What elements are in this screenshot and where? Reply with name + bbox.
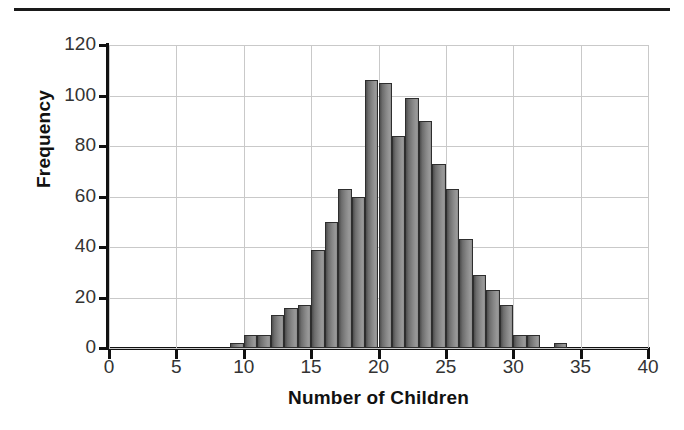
histogram-bar xyxy=(446,189,459,348)
x-tick-label: 25 xyxy=(421,357,471,376)
gridline-vertical xyxy=(581,45,582,348)
x-tick-label: 0 xyxy=(84,357,134,376)
gridline-vertical xyxy=(513,45,514,348)
histogram-bar xyxy=(365,80,378,348)
y-tick-mark xyxy=(99,297,109,300)
histogram-bar xyxy=(527,335,540,348)
histogram-bar xyxy=(513,335,526,348)
gridline-vertical xyxy=(109,45,110,348)
y-tick-label: 0 xyxy=(0,337,96,356)
plot-area xyxy=(109,45,648,348)
x-tick-label: 5 xyxy=(151,357,201,376)
histogram-bar xyxy=(325,222,338,348)
y-tick-mark xyxy=(99,95,109,98)
histogram-bar xyxy=(405,98,418,348)
y-axis-title: Frequency xyxy=(33,39,55,239)
histogram-bar xyxy=(311,250,324,348)
histogram-bar xyxy=(230,343,243,348)
histogram-bar xyxy=(432,164,445,348)
gridline-vertical xyxy=(176,45,177,348)
histogram-bar xyxy=(352,197,365,349)
y-tick-mark xyxy=(99,246,109,249)
histogram-bar xyxy=(419,121,432,348)
histogram-bar xyxy=(257,335,270,348)
x-tick-label: 20 xyxy=(354,357,404,376)
y-tick-mark xyxy=(99,44,109,47)
histogram-bar xyxy=(554,343,567,348)
histogram-bar xyxy=(338,189,351,348)
x-tick-label: 10 xyxy=(219,357,269,376)
x-axis-title: Number of Children xyxy=(109,387,648,409)
histogram-bar xyxy=(244,335,257,348)
histogram-bar xyxy=(459,239,472,348)
gridline-horizontal xyxy=(109,348,648,349)
histogram-bar xyxy=(486,290,499,348)
histogram-bar xyxy=(284,308,297,348)
y-tick-label: 20 xyxy=(0,287,96,306)
histogram-figure: 020406080100120 0510152025303540 Frequen… xyxy=(0,0,684,430)
header-divider xyxy=(14,8,670,11)
x-tick-label: 30 xyxy=(488,357,538,376)
gridline-vertical xyxy=(244,45,245,348)
gridline-vertical xyxy=(648,45,649,348)
x-tick-label: 35 xyxy=(556,357,606,376)
x-tick-label: 15 xyxy=(286,357,336,376)
x-tick-label: 40 xyxy=(623,357,673,376)
histogram-bar xyxy=(379,83,392,348)
y-tick-mark xyxy=(99,145,109,148)
histogram-bar xyxy=(392,136,405,348)
histogram-bar xyxy=(473,275,486,348)
histogram-bar xyxy=(500,305,513,348)
histogram-bar xyxy=(298,305,311,348)
histogram-bar xyxy=(271,315,284,348)
y-tick-mark xyxy=(99,196,109,199)
